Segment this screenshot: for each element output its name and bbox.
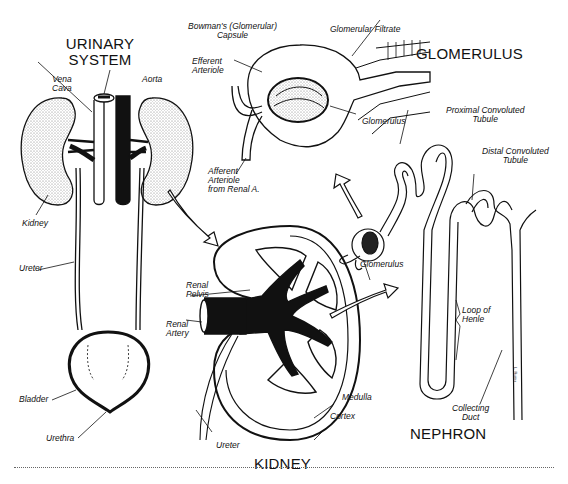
label-kidney: Kidney <box>22 219 48 228</box>
renal-artery-shape <box>204 298 246 334</box>
arrow-nephron-to-glomerulus <box>334 174 362 218</box>
label-renal-artery-line2: Artery <box>166 329 189 338</box>
vena-cava-shape <box>94 100 104 205</box>
label-vena-cava: Vena Cava <box>52 75 72 93</box>
title-kidney: KIDNEY <box>254 456 311 472</box>
label-ureter-kidney: Ureter <box>216 441 240 450</box>
label-urethra: Urethra <box>46 434 74 443</box>
kidney-cross-section <box>186 226 360 440</box>
title-glomerulus: GLOMERULUS <box>416 46 523 62</box>
label-renal-artery: Renal Artery <box>166 320 189 338</box>
left-ureter <box>75 168 82 330</box>
collecting-duct <box>512 210 536 420</box>
label-cortex: Cortex <box>330 412 355 421</box>
aorta-shape <box>116 96 130 205</box>
glomerulus-drawing <box>232 20 430 174</box>
right-kidney-shape <box>139 98 193 205</box>
label-distal-tubule: Distal Convoluted Tubule <box>482 147 549 165</box>
label-ureter-left: Ureter <box>19 264 43 273</box>
right-ureter <box>136 168 144 330</box>
title-nephron: NEPHRON <box>410 426 486 442</box>
artist-signature: L. Ruiter <box>513 367 518 382</box>
title-urinary-system: URINARY SYSTEM <box>60 36 140 68</box>
label-loop-line2: Henle <box>462 315 490 324</box>
label-distal-line2: Tubule <box>482 156 549 165</box>
label-collecting-line2: Duct <box>452 413 489 422</box>
label-bladder: Bladder <box>19 395 48 404</box>
label-bowmans-line2: Capsule <box>188 31 277 40</box>
glomerulus-tuft <box>268 78 328 122</box>
label-renal-pelvis-line2: Pelvis <box>186 290 209 299</box>
label-glomerulus-nephron: Glomerulus <box>360 260 403 269</box>
label-collecting-duct: Collecting Duct <box>452 404 489 422</box>
label-proximal-line2: Tubule <box>446 115 524 124</box>
arrow-kidney-to-section <box>168 190 218 246</box>
label-cava: Cava <box>52 84 72 93</box>
title-urinary-line2: SYSTEM <box>60 52 140 68</box>
label-glomerular-filtrate: Glomerular Filtrate <box>330 25 400 34</box>
bladder-shape <box>69 332 148 412</box>
label-proximal-tubule: Proximal Convoluted Tubule <box>446 106 524 124</box>
label-aorta: Aorta <box>142 75 162 84</box>
label-bowmans-capsule: Bowman's (Glomerular) Capsule <box>188 22 277 40</box>
label-afferent-line3: from Renal A. <box>208 185 260 194</box>
title-urinary-line1: URINARY <box>60 36 140 52</box>
label-efferent-arteriole: Efferent Arteriole <box>192 57 224 75</box>
label-efferent-line2: Arteriole <box>192 66 224 75</box>
label-renal-pelvis: Renal Pelvis <box>186 281 209 299</box>
label-afferent-arteriole: Afferent Arteriole from Renal A. <box>208 167 260 194</box>
left-kidney-shape <box>21 98 75 205</box>
label-glomerulus-detail: Glomerulus <box>362 117 405 126</box>
label-medulla: Medulla <box>342 393 372 402</box>
distal-tubule <box>466 191 512 251</box>
label-loop-of-henle: Loop of Henle <box>462 306 490 324</box>
dotted-divider <box>14 467 554 468</box>
urinary-system-drawing <box>21 62 192 438</box>
nephron-glomerulus <box>362 232 378 254</box>
